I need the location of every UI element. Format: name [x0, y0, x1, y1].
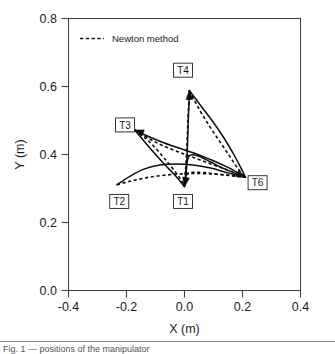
legend: Newton method — [80, 33, 179, 44]
point-label-text: T4 — [177, 65, 189, 76]
x-axis-ticks — [69, 291, 301, 298]
y-axis-ticks — [62, 19, 69, 291]
point-label-t3: T3 — [116, 118, 135, 132]
caption-divider — [0, 341, 335, 342]
plot-frame — [69, 19, 301, 291]
x-tick-label-1: -0.2 — [116, 300, 138, 314]
x-tick-label-3: 0.2 — [234, 300, 251, 314]
chart-svg: 0.0 0.2 0.4 0.6 0.8 -0.4 -0.2 0.0 0.2 0.… — [0, 0, 335, 354]
arrow-head-icon-0 — [186, 91, 193, 100]
curve-layer — [117, 91, 245, 187]
figure-caption: Fig. 1 — positions of the manipulator — [3, 344, 333, 354]
series-curve-9 — [189, 91, 245, 178]
point-label-t4: T4 — [174, 63, 193, 77]
y-axis-title: Y (m) — [13, 139, 27, 169]
y-tick-label-1: 0.2 — [40, 216, 57, 230]
series-curve-8 — [189, 91, 245, 178]
x-tick-label-0: -0.4 — [58, 300, 80, 314]
legend-entry-label: Newton method — [112, 33, 179, 44]
y-tick-label-3: 0.6 — [40, 80, 57, 94]
point-label-text: T2 — [113, 196, 125, 207]
point-label-text: T1 — [177, 196, 189, 207]
figure-container: 0.0 0.2 0.4 0.6 0.8 -0.4 -0.2 0.0 0.2 0.… — [0, 0, 335, 354]
point-label-t2: T2 — [110, 194, 129, 208]
y-tick-label-4: 0.8 — [40, 12, 57, 26]
y-tick-label-0: 0.0 — [40, 284, 57, 298]
point-label-text: T6 — [252, 177, 264, 188]
point-label-text: T3 — [119, 120, 131, 131]
x-axis-title: X (m) — [169, 322, 200, 336]
x-tick-label-2: 0.0 — [176, 300, 193, 314]
x-tick-label-4: 0.4 — [292, 300, 309, 314]
y-tick-label-2: 0.4 — [40, 148, 57, 162]
point-label-t6: T6 — [248, 176, 267, 190]
point-label-t1: T1 — [174, 194, 193, 208]
